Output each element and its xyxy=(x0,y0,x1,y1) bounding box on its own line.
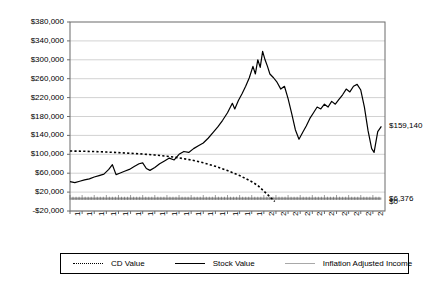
legend-item: Stock Value xyxy=(175,259,255,268)
legend-item: Inflation Adjusted Income xyxy=(285,259,412,268)
legend-item-label: Inflation Adjusted Income xyxy=(323,259,412,268)
chart-legend: CD ValueStock ValueInflation Adjusted In… xyxy=(60,253,409,274)
legend-item: CD Value xyxy=(73,259,145,268)
legend-line-swatch-icon xyxy=(175,259,205,268)
legend-item-label: CD Value xyxy=(111,259,145,268)
legend-item-label: Stock Value xyxy=(213,259,255,268)
plot-area xyxy=(0,0,443,281)
legend-line-swatch-icon xyxy=(73,259,103,268)
legend-line-swatch-icon xyxy=(285,259,315,268)
investment-growth-chart: $380,000$340,000$300,000$260,000$220,000… xyxy=(0,0,443,281)
